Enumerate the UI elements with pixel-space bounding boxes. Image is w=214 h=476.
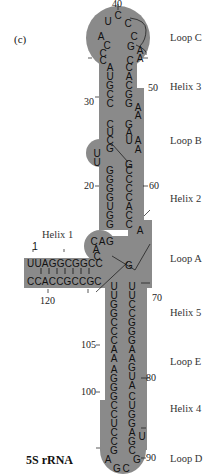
nucleotide: G (106, 144, 114, 154)
region-label-helix-2: Helix 2 (170, 193, 201, 204)
nucleotide: C (95, 259, 103, 269)
panel-label: (c) (14, 33, 26, 45)
position-number-1: 1 (31, 242, 39, 252)
nucleotide: G (133, 455, 141, 465)
position-number-100: 100 (81, 387, 96, 397)
nucleotide: A (128, 381, 136, 391)
nucleotide: C (106, 99, 114, 109)
figure-title: 5S rRNA (26, 453, 73, 468)
nucleotide: A (136, 226, 144, 236)
position-number-50: 50 (148, 83, 158, 93)
nucleotide: A (136, 54, 144, 64)
position-number-20: 20 (84, 181, 94, 191)
nucleotide: U (93, 158, 101, 168)
position-number-120: 120 (40, 296, 55, 306)
nucleotide: U (138, 432, 146, 442)
position-number-30: 30 (84, 97, 94, 107)
nucleotide: A (134, 145, 142, 155)
nucleotide: G (127, 42, 135, 52)
position-number-70: 70 (152, 293, 162, 303)
region-label-loop-c: Loop C (170, 32, 202, 43)
region-label-loop-a: Loop A (170, 253, 202, 264)
region-label-loop-b: Loop B (170, 135, 202, 146)
nucleotide: A (134, 111, 142, 121)
nucleotide: G (113, 464, 121, 474)
nucleotide: U (125, 136, 133, 146)
nucleotide: G (106, 220, 114, 230)
helix1-bottom-strand: CCACCGCCGC (27, 277, 102, 287)
nucleotide: A (104, 455, 112, 465)
position-number-60: 60 (149, 181, 159, 191)
position-number-90: 90 (146, 453, 156, 463)
region-label-helix-3: Helix 3 (170, 81, 201, 92)
position-number-105: 105 (81, 340, 96, 350)
nucleotide: C (122, 464, 130, 474)
nucleotide: G (106, 237, 114, 247)
nucleotide: C (114, 11, 122, 21)
nucleotide: C (124, 19, 132, 29)
nucleotide: G (125, 261, 133, 271)
position-number-40: 40 (112, 0, 122, 9)
helix1-top-strand: UUAGGCGGC (27, 259, 95, 269)
region-label-loop-d: Loop D (170, 453, 202, 464)
5s-rrna-diagram: C U C A C C G C A A C C A U G C C C A C … (0, 0, 214, 476)
helix1-label: Helix 1 (42, 229, 73, 240)
nucleotide: U (104, 17, 112, 27)
nucleotide: A (110, 354, 118, 364)
region-label-helix-5: Helix 5 (170, 307, 201, 318)
region-label-helix-4: Helix 4 (170, 403, 201, 414)
region-label-loop-e: Loop E (170, 356, 201, 367)
position-number-80: 80 (146, 373, 156, 383)
nucleotide: G (125, 99, 133, 109)
nucleotide: C (125, 220, 133, 230)
